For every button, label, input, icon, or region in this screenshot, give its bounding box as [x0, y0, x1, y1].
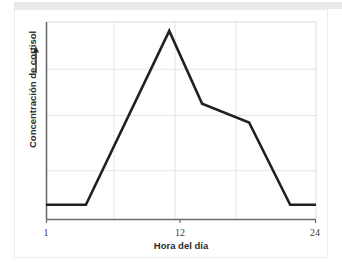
x-tick-label-1: 1	[44, 227, 49, 238]
x-tick-label-24: 24	[310, 227, 320, 238]
x-tick-label-12: 12	[175, 227, 185, 238]
figure-root: 1 12 24 Hora del día Concentración de co…	[0, 0, 342, 272]
cortisol-line-chart: 1 12 24 Hora del día Concentración de co…	[0, 0, 342, 272]
plot-area-background	[46, 22, 316, 219]
x-axis-title: Hora del día	[154, 240, 209, 251]
